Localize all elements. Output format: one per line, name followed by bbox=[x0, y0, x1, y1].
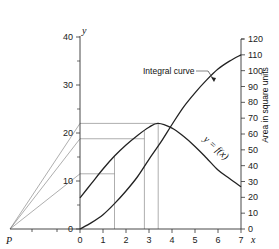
x-tick-label: 2 bbox=[123, 235, 128, 245]
right-y-tick-label: 40 bbox=[248, 161, 258, 171]
left-y-axis-label: y bbox=[81, 25, 87, 36]
right-y-tick-label: 110 bbox=[248, 50, 262, 60]
x-tick-label: 6 bbox=[215, 235, 220, 245]
x-tick-label: 7 bbox=[238, 235, 243, 245]
arrow-head-icon bbox=[211, 77, 216, 82]
right-y-tick-label: 60 bbox=[248, 129, 258, 139]
x-tick-label: 4 bbox=[169, 235, 174, 245]
left-y-tick-label: 30 bbox=[63, 80, 73, 90]
right-y-tick-label: 70 bbox=[248, 113, 258, 123]
left-y-tick-label: 40 bbox=[63, 32, 73, 42]
pole-label: P bbox=[5, 235, 12, 246]
x-tick-label: 0 bbox=[77, 235, 82, 245]
right-y-tick-label: 50 bbox=[248, 145, 258, 155]
right-y-tick-label: 20 bbox=[248, 192, 258, 202]
x-tick-label: 1 bbox=[100, 235, 105, 245]
right-y-tick-label: 120 bbox=[248, 34, 263, 44]
integral-curve-chart: 010203040y0102030405060708090100110120Ar… bbox=[0, 0, 279, 249]
x-axis-label: x bbox=[250, 234, 256, 245]
left-y-tick-label: 0 bbox=[68, 224, 73, 234]
integral-curve-label: Integral curve bbox=[143, 66, 195, 76]
left-y-tick-label: 20 bbox=[63, 128, 73, 138]
right-y-tick-label: 90 bbox=[248, 82, 258, 92]
x-tick-label: 5 bbox=[192, 235, 197, 245]
left-y-tick-label: 10 bbox=[63, 176, 73, 186]
right-y-axis-label: Area in square units bbox=[260, 67, 270, 143]
right-y-tick-label: 80 bbox=[248, 97, 258, 107]
x-tick-label: 3 bbox=[146, 235, 151, 245]
right-y-tick-label: 10 bbox=[248, 208, 258, 218]
fx-curve-label: y = f(x) bbox=[200, 133, 232, 163]
right-y-tick-label: 30 bbox=[248, 177, 258, 187]
right-y-tick-label: 0 bbox=[248, 224, 253, 234]
fx-curve bbox=[80, 123, 241, 197]
